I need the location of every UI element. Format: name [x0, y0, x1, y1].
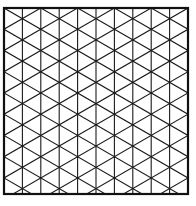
vertical-grid-lines: [22, 8, 169, 194]
isometric-grid-diagram: [0, 0, 196, 206]
diagonal-line-down: [4, 0, 188, 8]
diagonal-line-up: [4, 0, 188, 8]
grid-svg: [0, 0, 196, 206]
diagonal-line-down: [4, 199, 188, 206]
diagonal-line-up: [4, 199, 188, 206]
